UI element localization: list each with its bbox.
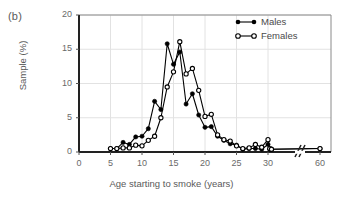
data-series-layer: [108, 40, 322, 152]
y-tick-5: 5: [52, 112, 72, 122]
y-tick-0: 0: [52, 146, 72, 156]
x-tick-15: 15: [164, 158, 184, 168]
chart-legend: MalesFemales: [236, 16, 298, 41]
y-tick-10: 10: [52, 78, 72, 88]
line-chart: MalesFemales: [0, 0, 343, 201]
x-axis-title: Age starting to smoke (years): [0, 178, 343, 189]
y-tick-20: 20: [52, 9, 72, 19]
x-tick-20: 20: [195, 158, 215, 168]
legend-item-females: Females: [261, 30, 298, 41]
panel-label: (b): [8, 10, 22, 22]
x-tick-5: 5: [101, 158, 121, 168]
figure-panel-b: (b) MalesFemales 05101520 05101520253060…: [0, 0, 343, 201]
x-tick-10: 10: [132, 158, 152, 168]
y-tick-15: 15: [52, 43, 72, 53]
y-axis-title: Sample (%): [17, 26, 28, 106]
x-tick-30: 30: [258, 158, 278, 168]
x-tick-60: 60: [310, 158, 330, 168]
x-tick-25: 25: [227, 158, 247, 168]
x-tick-0: 0: [69, 158, 89, 168]
axis-break-marker: [295, 145, 305, 157]
legend-item-males: Males: [261, 16, 287, 27]
